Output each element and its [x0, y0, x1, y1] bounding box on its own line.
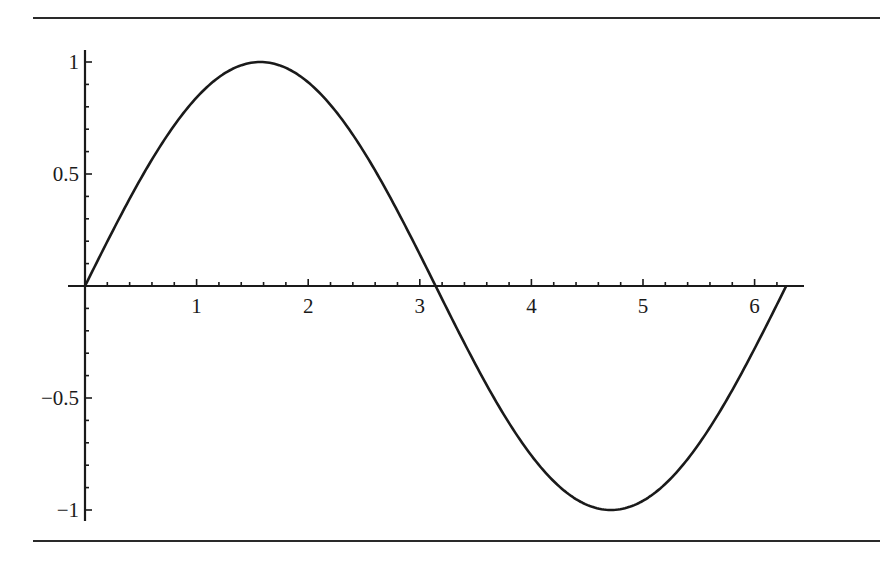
- y-tick-label: 0.5: [53, 162, 79, 186]
- y-tick-label: 1: [69, 50, 80, 74]
- x-tick-label: 3: [415, 294, 426, 318]
- x-tick-label: 6: [749, 294, 760, 318]
- sine-plot: 123456 10.5−0.5−1: [0, 0, 880, 570]
- x-tick-label: 1: [191, 294, 202, 318]
- x-tick-label: 5: [638, 294, 649, 318]
- x-tick-label: 4: [526, 294, 537, 318]
- x-tick-label: 2: [303, 294, 314, 318]
- y-tick-label: −0.5: [41, 386, 79, 410]
- y-tick-label: −1: [57, 498, 79, 522]
